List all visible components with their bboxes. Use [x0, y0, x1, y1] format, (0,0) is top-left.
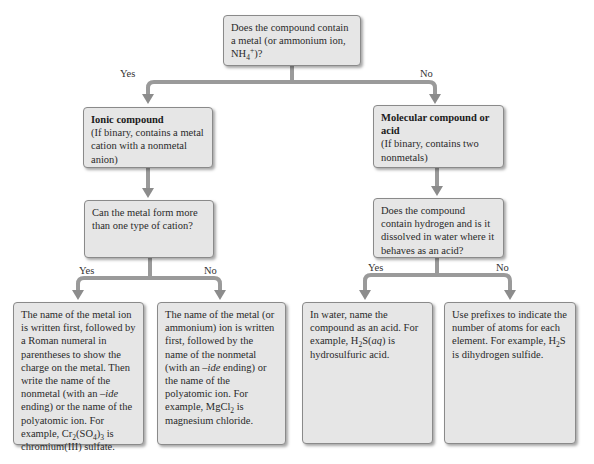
molecular-no-label: No: [496, 262, 509, 273]
ionic-compound-box: Ionic compound (If binary, contains a me…: [83, 107, 213, 168]
molecular-yes-label: Yes: [368, 262, 383, 273]
root-yes-label: Yes: [120, 68, 135, 79]
root-question-box: Does the compound contain a metal (or am…: [223, 15, 361, 66]
result-text: Use prefixes to indicate the number of a…: [452, 309, 567, 346]
root-question-end: )?: [254, 48, 262, 59]
molecular-compound-box: Molecular compound or acid (If binary, c…: [373, 105, 504, 168]
molecular-desc: (If binary, contains two nonmetals): [381, 138, 479, 162]
cation-question-box: Can the metal form more than one type of…: [84, 200, 214, 258]
result-text: (SO: [76, 428, 93, 439]
ide-suffix: –ide: [100, 388, 118, 399]
ide-suffix: –ide: [202, 362, 220, 373]
aq-italic: aq: [372, 335, 383, 346]
ionic-multiple-cation-result-box: The name of the metal ion is written fir…: [13, 302, 144, 445]
molecular-prefix-result-box: Use prefixes to indicate the number of a…: [444, 302, 576, 444]
ionic-desc: (If binary, contains a metal cation with…: [91, 127, 204, 164]
root-no-label: No: [420, 68, 433, 79]
ionic-yes-label: Yes: [79, 265, 94, 276]
result-text: The name of the metal ion is written fir…: [21, 309, 136, 399]
acid-question-box: Does the compound contain hydrogen and i…: [373, 198, 504, 258]
acid-question-text: Does the compound contain hydrogen and i…: [381, 205, 494, 256]
ionic-single-cation-result-box: The name of the metal (or ammonium) ion …: [157, 302, 286, 445]
result-text: S(: [362, 335, 371, 346]
ionic-title: Ionic compound: [91, 114, 164, 125]
cation-question-text: Can the metal form more than one type of…: [92, 207, 198, 231]
acid-result-box: In water, name the compound as an acid. …: [302, 302, 433, 444]
ionic-no-label: No: [204, 265, 217, 276]
molecular-title: Molecular compound or acid: [381, 112, 489, 136]
